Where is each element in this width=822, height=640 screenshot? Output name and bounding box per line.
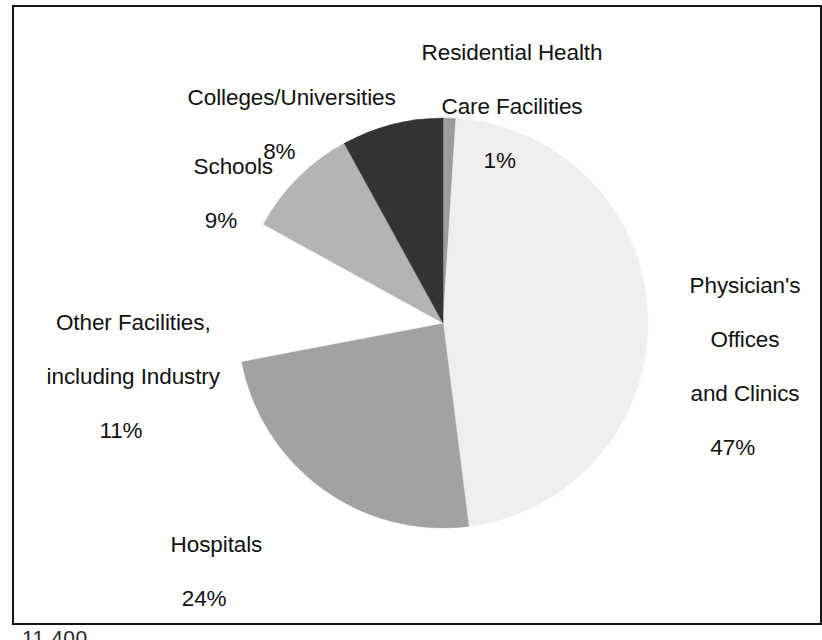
slice-label-residential-health-care-facilities: Residential Health Care Facilities 1% bbox=[397, 12, 602, 228]
slice-label-residential-line1: Residential Health bbox=[422, 40, 603, 65]
slice-label-physicians-line3: and Clinics bbox=[691, 381, 800, 406]
slice-label-hospitals-percent: 24% bbox=[146, 585, 262, 612]
slice-label-other-line2: including Industry bbox=[47, 364, 220, 389]
slice-label-residential-line2: Care Facilities bbox=[441, 94, 582, 119]
slice-label-physicians-line2: Offices bbox=[711, 327, 780, 352]
slice-label-hospitals: Hospitals 24% bbox=[146, 504, 262, 640]
slice-label-physicians-percent: 47% bbox=[665, 434, 800, 461]
slice-label-schools: Schools 9% bbox=[169, 126, 273, 288]
slice-label-other-facilities-including-industry: Other Facilities, including Industry 11% bbox=[22, 282, 220, 498]
slice-label-physicians-offices-and-clinics: Physician's Offices and Clinics 47% bbox=[665, 245, 800, 515]
slice-label-schools-percent: 9% bbox=[169, 207, 273, 234]
slice-label-hospitals-line1: Hospitals bbox=[171, 532, 263, 557]
clipped-footer-caption: 11,400 bbox=[22, 627, 88, 640]
slice-label-schools-line1: Schools bbox=[194, 154, 273, 179]
slice-label-residential-percent: 1% bbox=[397, 147, 602, 174]
slice-label-other-line1: Other Facilities, bbox=[56, 310, 211, 335]
slice-label-physicians-line1: Physician's bbox=[690, 273, 801, 298]
slice-label-other-percent: 11% bbox=[22, 417, 220, 444]
slice-label-colleges-line1: Colleges/Universities bbox=[188, 85, 396, 110]
